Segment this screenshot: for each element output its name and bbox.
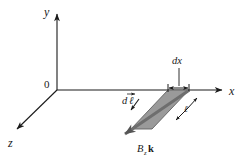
z-axis-line: [17, 90, 57, 129]
origin-label: 0: [44, 78, 50, 90]
length-dimension-group: ℓ: [176, 98, 197, 120]
length-dimension-line-upper: [187, 98, 197, 109]
coordinate-axes: [17, 14, 222, 129]
dl-label-d: d: [122, 95, 128, 106]
x-axis-label: x: [228, 84, 235, 98]
y-axis-label: y: [43, 5, 50, 19]
physics-diagram-figure: y x z 0 dx ℓ: [0, 0, 245, 161]
diagram-canvas: y x z 0 dx ℓ: [0, 0, 245, 161]
dl-label-ell: ℓ: [129, 95, 134, 106]
dx-dimension-group: dx: [168, 55, 189, 92]
field-label-group: B z k: [137, 143, 154, 156]
dl-vector-arrow: [125, 91, 188, 134]
length-label: ℓ: [184, 104, 188, 114]
z-axis-label: z: [7, 136, 13, 150]
dl-label-group: d ℓ: [122, 94, 139, 110]
field-label-B: B: [137, 143, 144, 154]
dx-label: dx: [172, 55, 182, 66]
dl-vector-group: [125, 91, 188, 134]
field-label-unit-vector: k: [148, 143, 154, 154]
field-label-subscript: z: [143, 149, 147, 156]
